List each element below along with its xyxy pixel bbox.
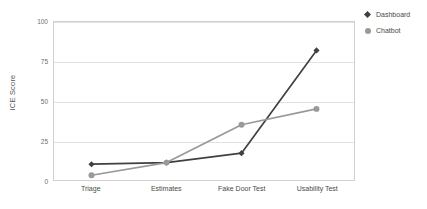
y-tick-label: 100 xyxy=(22,18,48,25)
series-line xyxy=(92,109,317,175)
data-point-marker xyxy=(164,160,170,166)
y-tick-label: 0 xyxy=(22,178,48,185)
x-tick-label: Usability Test xyxy=(297,185,338,192)
x-tick-label: Triage xyxy=(81,185,101,192)
circle-marker-icon xyxy=(364,27,372,35)
y-axis-tick-labels: 0255075100 xyxy=(22,0,48,209)
x-tick-label: Fake Door Test xyxy=(218,185,265,192)
line-chart: ICE Score 0255075100 TriageEstimatesFake… xyxy=(0,0,427,209)
legend-item-label: Dashboard xyxy=(376,11,410,18)
data-point-marker xyxy=(88,161,94,167)
y-axis-title: ICE Score xyxy=(6,0,20,185)
series-line xyxy=(92,50,317,164)
plot-area xyxy=(53,21,355,181)
legend-item-dashboard[interactable]: Dashboard xyxy=(364,8,426,21)
data-point-marker xyxy=(239,122,245,128)
y-tick-label: 25 xyxy=(22,138,48,145)
y-axis-title-label: ICE Score xyxy=(9,75,18,111)
plot-svg xyxy=(54,22,354,180)
y-tick-label: 50 xyxy=(22,98,48,105)
x-axis-tick-labels: TriageEstimatesFake Door TestUsability T… xyxy=(53,185,355,201)
series-chatbot xyxy=(89,106,320,178)
chart-legend: DashboardChatbot xyxy=(364,8,426,40)
legend-item-chatbot[interactable]: Chatbot xyxy=(364,24,426,37)
diamond-marker-icon xyxy=(364,11,372,19)
x-tick-label: Estimates xyxy=(151,185,182,192)
data-point-marker xyxy=(314,106,320,112)
y-tick-label: 75 xyxy=(22,58,48,65)
legend-item-label: Chatbot xyxy=(376,27,401,34)
data-point-marker xyxy=(89,172,95,178)
series-dashboard xyxy=(88,47,319,167)
